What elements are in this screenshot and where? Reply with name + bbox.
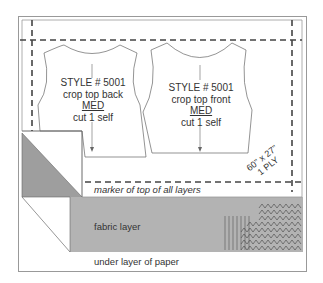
pattern-front-size: MED	[160, 105, 242, 117]
pattern-back-size: MED	[52, 100, 134, 112]
pattern-back-label: STYLE # 5001 crop top back MED cut 1 sel…	[52, 77, 134, 123]
pattern-back-name: crop top back	[52, 89, 134, 101]
pattern-back-cut: cut 1 self	[52, 112, 134, 124]
pattern-front-style: STYLE # 5001	[160, 82, 242, 94]
marker-layer-label: marker of top of all layers	[94, 184, 201, 196]
pattern-front-name: crop top front	[160, 94, 242, 106]
pattern-front-cut: cut 1 self	[160, 117, 242, 129]
pattern-front-label: STYLE # 5001 crop top front MED cut 1 se…	[160, 82, 242, 128]
paper-layer-label: under layer of paper	[94, 256, 179, 268]
fabric-layer-label: fabric layer	[94, 221, 140, 233]
pattern-back-style: STYLE # 5001	[52, 77, 134, 89]
